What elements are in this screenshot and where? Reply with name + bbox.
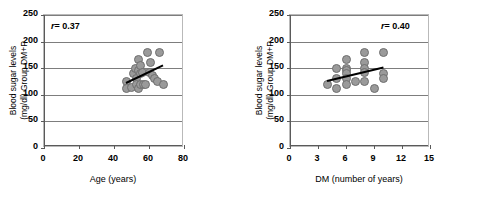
scatter-point xyxy=(379,74,388,83)
chart-panel-age: Blood sugar levels (mg/dl) Group DM+P Ag… xyxy=(0,0,246,209)
y-tick-100 xyxy=(41,95,45,96)
x-tick-label-6: 6 xyxy=(332,153,358,163)
correlation-value: = 0.37 xyxy=(55,21,80,31)
x-tick-0 xyxy=(290,145,291,149)
x-tick-label-0: 0 xyxy=(276,153,302,163)
scatter-point xyxy=(370,84,379,93)
x-tick-3 xyxy=(318,145,319,149)
plot-area-age xyxy=(43,14,183,147)
gridline-y-250 xyxy=(44,15,182,16)
x-tick-label-9: 9 xyxy=(360,153,386,163)
y-tick-label-150: 150 xyxy=(258,61,284,71)
gridline-y-200 xyxy=(44,42,182,43)
scatter-point xyxy=(332,64,341,73)
y-tick-200 xyxy=(287,42,291,43)
y-tick-label-0: 0 xyxy=(258,141,284,151)
scatter-point xyxy=(379,48,388,57)
x-tick-60 xyxy=(149,145,150,149)
correlation-annotation: r= 0.40 xyxy=(381,21,410,31)
x-tick-80 xyxy=(184,145,185,149)
y-tick-label-200: 200 xyxy=(12,35,38,45)
y-tick-label-50: 50 xyxy=(258,114,284,124)
y-tick-50 xyxy=(287,121,291,122)
scatter-point xyxy=(360,77,369,86)
x-tick-label-3: 3 xyxy=(304,153,330,163)
gridline-y-150 xyxy=(44,68,182,69)
y-tick-250 xyxy=(287,15,291,16)
gridline-y-100 xyxy=(44,95,182,96)
y-axis-line xyxy=(44,15,45,146)
scatter-point xyxy=(342,55,351,64)
scatter-point xyxy=(332,84,341,93)
gridline-y-250 xyxy=(290,15,428,16)
x-tick-label-40: 40 xyxy=(100,153,126,163)
y-tick-label-50: 50 xyxy=(12,114,38,124)
plot-area-dm xyxy=(289,14,429,147)
x-tick-20 xyxy=(79,145,80,149)
y-tick-label-100: 100 xyxy=(258,88,284,98)
y-tick-100 xyxy=(287,95,291,96)
scatter-point xyxy=(155,48,164,57)
scatter-point xyxy=(342,80,351,89)
gridline-y-100 xyxy=(290,95,428,96)
y-tick-label-100: 100 xyxy=(12,88,38,98)
gridline-y-150 xyxy=(290,68,428,69)
y-tick-label-250: 250 xyxy=(258,8,284,18)
y-tick-50 xyxy=(41,121,45,122)
x-tick-label-0: 0 xyxy=(30,153,56,163)
correlation-value: = 0.40 xyxy=(385,21,410,31)
x-axis-label-dm: DM (number of years) xyxy=(269,174,449,184)
x-tick-label-60: 60 xyxy=(135,153,161,163)
y-tick-label-200: 200 xyxy=(258,35,284,45)
y-tick-250 xyxy=(41,15,45,16)
scatter-point xyxy=(159,80,168,89)
scatter-point xyxy=(360,48,369,57)
gridline-y-200 xyxy=(290,42,428,43)
y-tick-200 xyxy=(41,42,45,43)
x-axis-line xyxy=(290,145,428,146)
scatter-point xyxy=(143,48,152,57)
scatter-point xyxy=(141,80,150,89)
x-tick-15 xyxy=(430,145,431,149)
scatter-point xyxy=(351,77,360,86)
y-axis-line xyxy=(290,15,291,146)
y-tick-150 xyxy=(41,68,45,69)
x-tick-9 xyxy=(374,145,375,149)
scatter-point xyxy=(146,58,155,67)
gridline-y-50 xyxy=(44,121,182,122)
x-tick-6 xyxy=(346,145,347,149)
y-tick-label-0: 0 xyxy=(12,141,38,151)
x-axis-line xyxy=(44,145,182,146)
chart-panel-dm: Blood sugar levels (mg/dl) Group DM+P DM… xyxy=(246,0,492,209)
gridline-y-50 xyxy=(290,121,428,122)
x-axis-label-age: Age (years) xyxy=(23,174,203,184)
y-tick-150 xyxy=(287,68,291,69)
x-tick-40 xyxy=(114,145,115,149)
x-tick-0 xyxy=(44,145,45,149)
x-tick-label-20: 20 xyxy=(65,153,91,163)
correlation-annotation: r= 0.37 xyxy=(51,21,80,31)
figure-canvas: Blood sugar levels (mg/dl) Group DM+P Ag… xyxy=(0,0,492,209)
x-tick-label-80: 80 xyxy=(170,153,196,163)
y-tick-label-150: 150 xyxy=(12,61,38,71)
x-tick-label-12: 12 xyxy=(388,153,414,163)
y-tick-label-250: 250 xyxy=(12,8,38,18)
x-tick-label-15: 15 xyxy=(416,153,442,163)
x-tick-12 xyxy=(402,145,403,149)
